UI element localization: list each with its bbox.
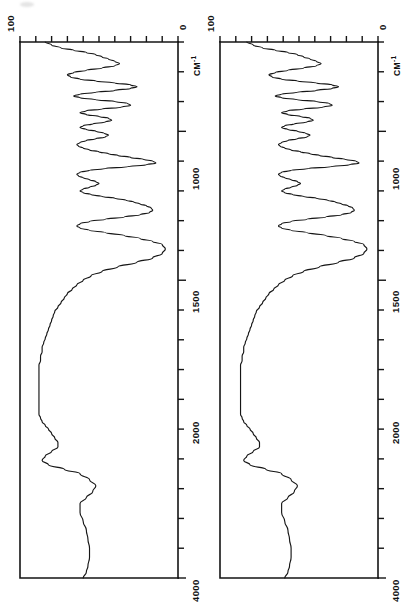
transmittance-label-100-lower: 100 [206, 15, 216, 32]
wavenumber-tick-label-2000-lower: 2000 [391, 421, 401, 444]
plot-frame-upper [20, 42, 178, 578]
spectrum-panel-upper: 100 0 CM-1 1000 1500 2000 4000 [0, 0, 207, 606]
transmittance-label-0-upper: 0 [178, 24, 188, 30]
wavenumber-tick-label-1000-lower: 1000 [391, 167, 401, 190]
ir-spectra-figure: 100 0 CM-1 1000 1500 2000 4000 100 0 CM-… [0, 0, 415, 606]
wavenumber-unit-superscript-upper: -1 [190, 55, 197, 62]
transmittance-ticks-upper [20, 36, 178, 42]
spectrum-trace-lower [241, 42, 367, 578]
spectrum-panel-lower: 100 0 CM-1 1000 1500 2000 4000 [200, 0, 407, 606]
wavenumber-unit-label-lower: CM-1 [391, 55, 401, 76]
wavenumber-tick-label-4000-lower: 4000 [391, 579, 401, 602]
plot-surface-lower [218, 34, 380, 586]
transmittance-label-100-upper: 100 [6, 15, 16, 32]
wavenumber-unit-superscript-lower: -1 [390, 55, 397, 62]
spectrum-trace-upper [39, 42, 165, 578]
spectrum-plot-upper [18, 34, 180, 586]
wavenumber-unit-text-lower: CM [392, 62, 402, 76]
spectrum-plot-lower [218, 34, 380, 586]
plot-box-upper [20, 42, 178, 578]
wavenumber-ticks-lower [378, 42, 386, 578]
wavenumber-tick-label-1500-lower: 1500 [391, 290, 401, 313]
transmittance-label-0-lower: 0 [378, 24, 388, 30]
plot-frame-lower [220, 42, 378, 578]
plot-surface-upper [18, 34, 180, 586]
plot-box-lower [220, 42, 378, 578]
transmittance-ticks-lower [220, 36, 378, 42]
wavenumber-ticks-upper [178, 42, 186, 578]
